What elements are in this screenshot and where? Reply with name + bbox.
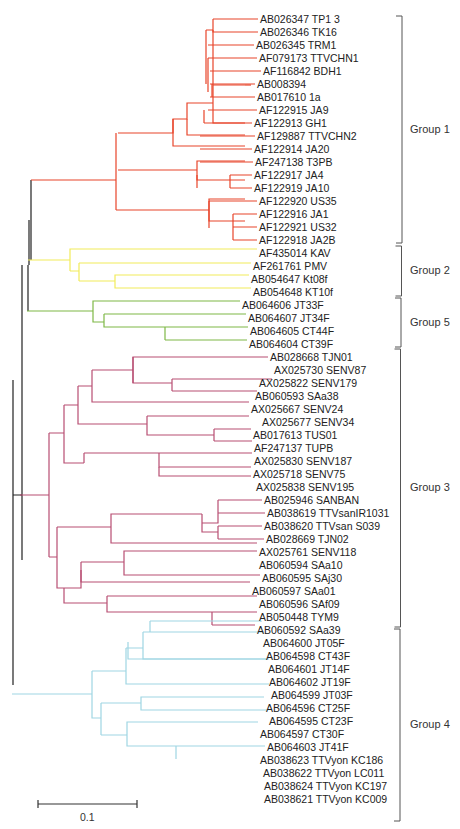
leaf-label: AB038622 TTVyon LC011 (263, 767, 384, 779)
leaf-label: AB017613 TUS01 (253, 429, 337, 441)
leaf-label: AB060596 SAf09 (259, 598, 340, 610)
leaf-label: AB064598 CT43F (266, 650, 350, 662)
leaf-label: AB064602 JT19F (269, 676, 351, 688)
leaf-label: AB064597 CT30F (260, 728, 344, 740)
leaf-label: AB038619 TTVsanIR1031 (267, 507, 389, 519)
scale-bar-label: 0.1 (80, 811, 95, 823)
leaf-label: AF122915 JA9 (259, 104, 328, 116)
group-label: Group 5 (410, 316, 450, 328)
leaf-label: AB026346 TK16 (260, 26, 337, 38)
leaf-label: AF116842 BDH1 (263, 65, 342, 77)
group5-branches (27, 301, 248, 340)
leaf-label: AB038620 TTVsan S039 (264, 520, 380, 532)
leaf-label: AB028669 TJN02 (266, 533, 349, 545)
leaf-label: AF122920 US35 (259, 195, 337, 207)
leaf-label: AB060597 SAa01 (252, 585, 336, 597)
leaf-label: AF122913 GH1 (254, 117, 327, 129)
leaf-label: AB054647 Kt08f (251, 273, 327, 285)
leaf-label: AB064599 JT03F (271, 689, 353, 701)
leaf-label: AF435014 KAV (259, 247, 331, 259)
leaf-label: AB064604 CT39F (249, 338, 333, 350)
leaf-label: AF122916 JA1 (259, 208, 328, 220)
group-brackets (394, 16, 402, 821)
leaf-label: AF247138 T3PB (255, 156, 332, 168)
leaf-label: AX025761 SENV118 (259, 546, 356, 558)
group3-branches (20, 357, 272, 625)
group-bracket (396, 16, 402, 243)
leaf-label: AB017610 1a (257, 91, 321, 103)
leaf-label: AF122914 JA20 (254, 143, 329, 155)
leaf-label: AF122918 JA2B (259, 234, 335, 246)
leaf-label: AB064605 CT44F (250, 325, 334, 337)
group-label: Group 1 (410, 123, 450, 135)
group-label: Group 3 (410, 481, 450, 493)
leaf-label: AB064596 CT25F (266, 702, 350, 714)
leaf-label: AB064601 JT14F (268, 663, 350, 675)
leaf-label: AB026347 TP1 3 (260, 13, 340, 25)
group4-branches (12, 621, 269, 759)
leaf-label: AB008394 (257, 78, 306, 90)
group-bracket (396, 246, 402, 296)
leaf-label: AB025946 SANBAN (264, 494, 359, 506)
leaf-label: AF079173 TTVCHN1 (259, 52, 359, 64)
backbone-branches (13, 180, 31, 685)
leaf-label: AB060593 SAa38 (255, 390, 339, 402)
leaf-label: AB064600 JT05F (263, 637, 345, 649)
leaf-label: AB038623 TTVyon KC186 (260, 754, 383, 766)
group-label: Group 4 (410, 718, 450, 730)
leaf-label: AB038621 TTVyon KC009 (264, 793, 387, 805)
leaf-label: AF122917 JA4 (254, 169, 323, 181)
leaf-label: AF247137 TUPB (254, 442, 333, 454)
leaf-label: AB060595 SAj30 (262, 572, 342, 584)
leaf-label: AF122919 JA10 (254, 182, 329, 194)
leaf-label: AF261761 PMV (253, 260, 327, 272)
phylogenetic-tree (0, 0, 460, 829)
leaf-label: AX025677 SENV34 (262, 416, 354, 428)
leaf-label: AB064607 JT34F (248, 312, 330, 324)
leaf-label: AB028668 TJN01 (270, 351, 353, 363)
leaf-label: AB060592 SAa39 (257, 624, 341, 636)
leaf-label: AB050448 TYM9 (259, 611, 339, 623)
leaf-label: AB026345 TRM1 (256, 39, 336, 51)
leaf-label: AB038624 TTVyon KC197 (264, 780, 387, 792)
leaf-label: AB054648 KT10f (253, 286, 333, 298)
leaf-label: AB060594 SAa10 (259, 559, 343, 571)
scale-bar (38, 800, 137, 808)
leaf-label: AF129887 TTVCHN2 (257, 130, 357, 142)
leaf-label: AB064603 JT41F (267, 741, 349, 753)
group-bracket (395, 349, 401, 627)
leaf-label: AX025838 SENV195 (256, 481, 354, 493)
leaf-label: AX025830 SENV187 (254, 455, 352, 467)
group-label: Group 2 (410, 264, 450, 276)
group-bracket (395, 298, 401, 347)
leaf-label: AX025822 SENV179 (259, 377, 357, 389)
leaf-label: AX025718 SENV75 (253, 468, 345, 480)
group-bracket (394, 629, 400, 821)
group1-branches (31, 19, 261, 240)
leaf-label: AB064595 CT23F (269, 715, 353, 727)
leaf-label: AX025730 SENV87 (274, 364, 366, 376)
leaf-label: AX025667 SENV24 (251, 403, 343, 415)
leaf-label: AF122921 US32 (259, 221, 337, 233)
group2-branches (28, 249, 257, 288)
leaf-label: AB064606 JT33F (242, 299, 324, 311)
